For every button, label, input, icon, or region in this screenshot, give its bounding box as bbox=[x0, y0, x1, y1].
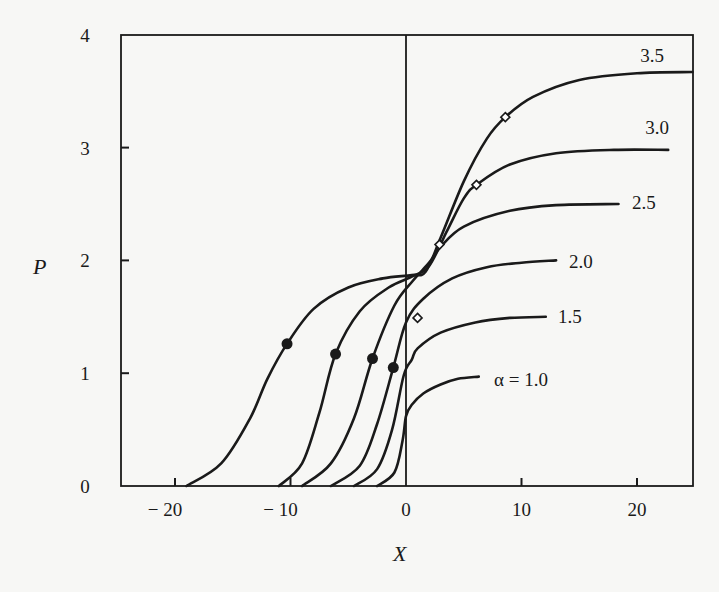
y-tick-label: 4 bbox=[80, 25, 90, 46]
curve-label: 1.5 bbox=[558, 306, 582, 327]
y-axis-title: P bbox=[32, 254, 46, 279]
curve-alpha-3.5 bbox=[187, 72, 693, 486]
curves bbox=[187, 72, 693, 486]
chart-figure: 01234− 20− 1001020 α = 1.01.52.02.53.03.… bbox=[0, 0, 719, 592]
curve-label: 3.5 bbox=[640, 45, 664, 66]
curve-label: 3.0 bbox=[645, 117, 669, 138]
y-tick-label: 3 bbox=[80, 138, 90, 159]
y-tick-label: 1 bbox=[80, 363, 90, 384]
x-axis-title: X bbox=[392, 541, 408, 566]
plot-frame bbox=[121, 35, 693, 486]
filled-dot-marker bbox=[330, 349, 341, 360]
x-tick-label: − 20 bbox=[148, 499, 182, 520]
x-tick-label: 20 bbox=[628, 499, 647, 520]
curve-markers bbox=[282, 113, 510, 373]
curve-alpha-3.0 bbox=[279, 150, 668, 486]
filled-dot-marker bbox=[367, 353, 378, 364]
x-tick-label: 10 bbox=[512, 499, 531, 520]
curve-label: α = 1.0 bbox=[494, 369, 548, 390]
axis-tick-labels: 01234− 20− 1001020 bbox=[80, 25, 646, 520]
open-diamond-marker bbox=[413, 313, 422, 322]
x-tick-label: − 10 bbox=[263, 499, 297, 520]
curve-alpha-2.5 bbox=[302, 204, 618, 486]
plot-border bbox=[121, 35, 693, 486]
y-tick-label: 2 bbox=[80, 250, 90, 271]
x-tick-label: 0 bbox=[401, 499, 411, 520]
filled-dot-marker bbox=[388, 362, 399, 373]
y-tick-label: 0 bbox=[80, 476, 90, 497]
curve-label: 2.5 bbox=[632, 192, 656, 213]
curve-labels: α = 1.01.52.02.53.03.5 bbox=[494, 45, 669, 390]
filled-dot-marker bbox=[282, 338, 293, 349]
curve-label: 2.0 bbox=[569, 251, 593, 272]
